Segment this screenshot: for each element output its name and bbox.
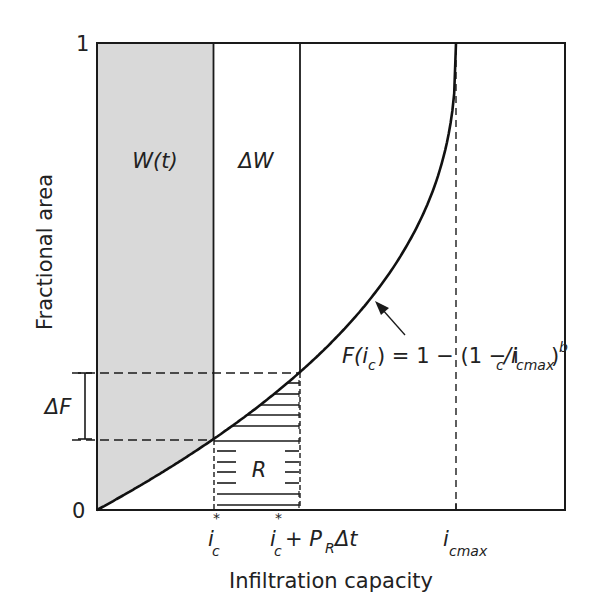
delta-f-bracket (78, 373, 92, 439)
formula-arrow (382, 309, 405, 335)
delta-w-label: ΔW (236, 149, 274, 173)
w-t-label: W(t) (132, 149, 177, 173)
svg-text:R: R (325, 540, 335, 556)
y-tick-0: 0 (72, 499, 85, 523)
r-hatch-lines (214, 380, 299, 508)
ic-plus-pr-dt-tick-label: i * c + P R Δt (270, 510, 358, 559)
icmax-tick-label: i cmax (443, 527, 488, 559)
svg-text:+ P: + P (285, 527, 322, 551)
svg-text:b: b (559, 339, 568, 355)
y-axis-label: Fractional area (33, 174, 57, 330)
x-axis-label: Infiltration capacity (229, 569, 433, 593)
svg-text:): ) (551, 344, 559, 368)
svg-text:c: c (496, 357, 504, 373)
svg-text:F(i: F(i (342, 344, 368, 368)
r-label: R (252, 458, 267, 482)
svg-text:*: * (213, 510, 220, 526)
ic-star-tick-label: i * c (208, 510, 220, 559)
svg-text:c: c (274, 543, 282, 559)
svg-text:c: c (368, 357, 376, 373)
arrow-head-icon (375, 301, 389, 315)
delta-f-label: ΔF (43, 395, 72, 419)
svg-text:cmax: cmax (449, 543, 488, 559)
svg-text:c: c (212, 543, 220, 559)
svg-text:Δt: Δt (333, 527, 358, 551)
svg-text:/i: /i (502, 344, 517, 368)
y-tick-1: 1 (76, 32, 89, 56)
distribution-formula: F(i c ) = 1 − (1 − i c /i cmax ) b (342, 339, 568, 373)
svg-text:*: * (275, 510, 282, 526)
svg-text:cmax: cmax (516, 357, 555, 373)
infiltration-capacity-diagram: 1 0 Fractional area Infiltration capacit… (0, 0, 595, 613)
